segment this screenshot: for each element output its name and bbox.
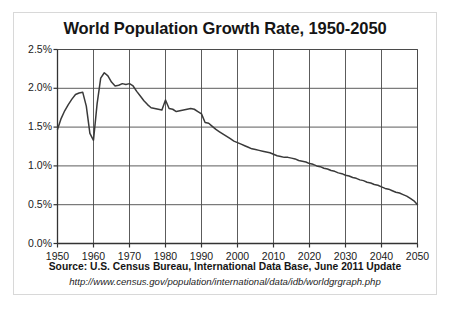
caption-url-line: http://www.census.gov/population/interna… bbox=[0, 276, 450, 287]
chart-figure: World Population Growth Rate, 1950-2050 … bbox=[0, 0, 450, 310]
x-axis-tick-label: 2050 bbox=[396, 250, 440, 262]
y-axis-tick-label: 0.0% bbox=[12, 237, 52, 249]
caption-source-line: Source: U.S. Census Bureau, Internationa… bbox=[0, 261, 450, 272]
y-axis-tick-label: 1.5% bbox=[12, 120, 52, 132]
y-axis-tick-label: 0.5% bbox=[12, 198, 52, 210]
y-axis-tick-label: 1.0% bbox=[12, 159, 52, 171]
y-axis-tick-label: 2.5% bbox=[12, 43, 52, 55]
y-axis-tick-label: 2.0% bbox=[12, 81, 52, 93]
